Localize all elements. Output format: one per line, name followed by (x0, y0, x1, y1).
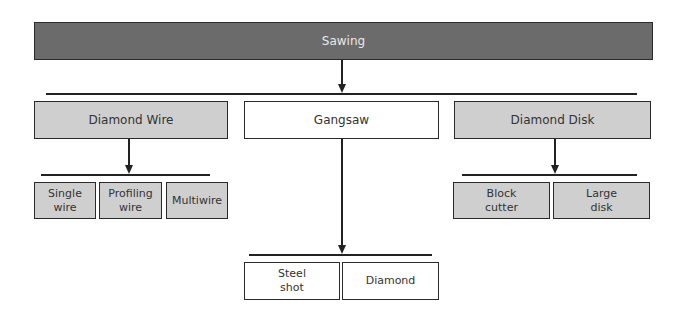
child-node-multiwire: Multiwire (166, 182, 228, 219)
root-label: Sawing (322, 34, 365, 49)
method-label: Diamond Disk (511, 113, 595, 128)
diamond-disk-connector-line (462, 174, 637, 176)
child-label: Single wire (48, 187, 82, 215)
method-node-gangsaw: Gangsaw (244, 101, 439, 139)
child-label: Large disk (586, 187, 617, 215)
child-label: Profiling wire (108, 187, 152, 215)
method-label: Gangsaw (314, 113, 369, 128)
root-arrow-head-icon (338, 84, 346, 93)
gangsaw-arrow-head-icon (338, 245, 346, 254)
child-node-profiling-wire: Profiling wire (99, 182, 162, 219)
method-node-diamond-disk: Diamond Disk (454, 101, 651, 139)
root-arrow-shaft (341, 60, 343, 85)
child-node-large-disk: Large disk (553, 182, 650, 219)
diamond-wire-arrow-head-icon (125, 165, 133, 174)
child-label: Diamond (366, 274, 416, 288)
method-label: Diamond Wire (89, 113, 174, 128)
diamond-wire-arrow-shaft (128, 139, 130, 165)
diamond-disk-arrow-head-icon (551, 165, 559, 174)
method-node-diamond-wire: Diamond Wire (34, 101, 228, 139)
child-label: Multiwire (172, 194, 222, 208)
child-node-diamond: Diamond (342, 262, 439, 300)
level1-connector-line (46, 93, 637, 95)
child-label: Block cutter (485, 187, 518, 215)
child-label: Steel shot (278, 267, 306, 295)
child-node-block-cutter: Block cutter (453, 182, 550, 219)
child-node-single-wire: Single wire (34, 182, 96, 219)
diamond-disk-arrow-shaft (554, 139, 556, 165)
child-node-steel-shot: Steel shot (244, 262, 340, 300)
diamond-wire-connector-line (41, 174, 210, 176)
gangsaw-connector-line (249, 254, 432, 256)
root-node-sawing: Sawing (34, 22, 653, 60)
gangsaw-arrow-shaft (341, 139, 343, 245)
